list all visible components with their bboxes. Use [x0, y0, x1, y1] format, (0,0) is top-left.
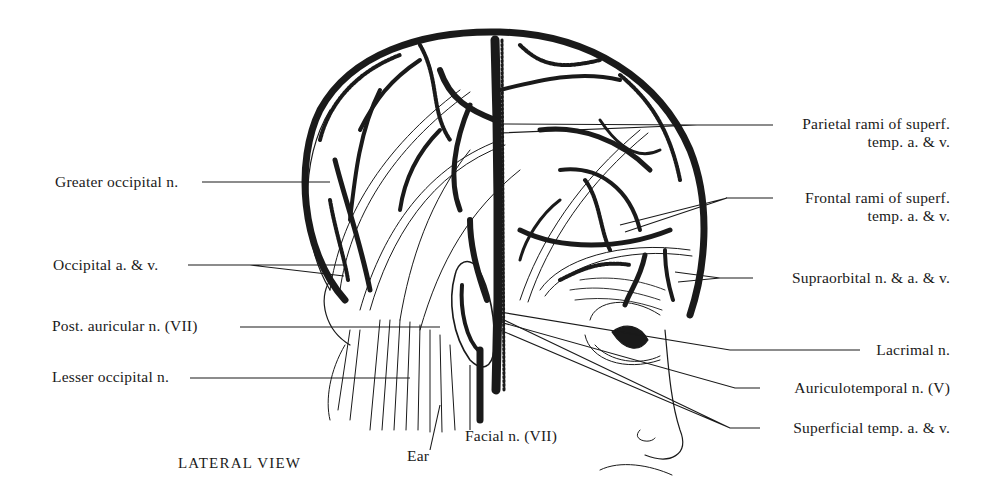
label-frontal-rami-line1: Frontal rami of superf. — [770, 189, 950, 207]
label-auriculotemporal-n: Auriculotemporal n. (V) — [755, 379, 950, 397]
label-lesser-occipital-n: Lesser occipital n. — [52, 368, 169, 386]
leader-supraorbital — [675, 272, 753, 282]
label-facial-n: Facial n. (VII) — [465, 427, 557, 445]
label-parietal-rami-line1: Parietal rami of superf. — [770, 115, 950, 133]
nostril — [637, 430, 655, 441]
leader-lines — [188, 124, 860, 450]
label-post-auricular-n: Post. auricular n. (VII) — [52, 317, 198, 335]
label-ear: Ear — [407, 447, 429, 465]
label-lacrimal-n: Lacrimal n. — [850, 341, 950, 359]
leader-frontal — [620, 198, 773, 232]
label-parietal-rami: Parietal rami of superf. temp. a. & v. — [770, 115, 950, 151]
label-occipital-a-v: Occipital a. & v. — [53, 256, 158, 274]
ear-shape — [452, 262, 495, 367]
superficial-temporal-vessel — [495, 40, 498, 390]
label-greater-occipital-n: Greater occipital n. — [55, 173, 178, 191]
label-superficial-temp: Superficial temp. a. & v. — [755, 419, 950, 437]
figure-caption: LATERAL VIEW — [178, 455, 301, 472]
label-frontal-rami-line2: temp. a. & v. — [770, 207, 950, 225]
anatomy-figure: Greater occipital n. Occipital a. & v. P… — [0, 0, 1007, 498]
label-parietal-rami-line2: temp. a. & v. — [770, 133, 950, 151]
label-frontal-rami: Frontal rami of superf. temp. a. & v. — [770, 189, 950, 225]
leader-ear — [430, 405, 440, 450]
label-supraorbital: Supraorbital n. & a. & v. — [750, 269, 950, 287]
eye — [612, 326, 648, 348]
